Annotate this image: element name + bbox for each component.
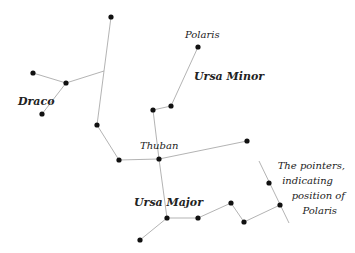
label-thuban: Thuban [140, 140, 178, 151]
pointers-note: The pointers, indicating position of Pol… [278, 158, 345, 218]
label-ursa-major: Ursa Major [134, 196, 203, 209]
label-draco: Draco [18, 95, 55, 108]
note-line-3: position of [278, 188, 345, 203]
label-ursa-minor: Ursa Minor [194, 70, 264, 83]
label-polaris: Polaris [185, 29, 220, 40]
star-map: Draco Polaris Ursa Minor Thuban Ursa Maj… [0, 0, 355, 253]
note-line-1: The pointers, [278, 158, 345, 173]
note-line-2: indicating [278, 173, 333, 188]
note-line-4: Polaris [278, 203, 337, 218]
